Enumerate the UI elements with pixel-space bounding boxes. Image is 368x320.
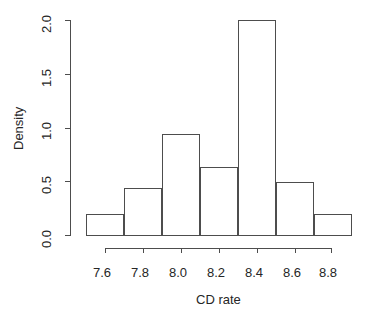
histogram-bar-0 — [86, 214, 124, 236]
histogram-bar-5 — [276, 182, 314, 236]
x-axis-tick-0 — [105, 248, 106, 253]
y-axis-tick-3 — [65, 74, 70, 75]
x-tick-label-1: 7.8 — [131, 266, 149, 279]
y-tick-label-0: 0.0 — [40, 230, 53, 248]
x-tick-label-5: 8.6 — [283, 266, 301, 279]
x-axis-title: CD rate — [196, 293, 241, 306]
x-axis-tick-4 — [257, 248, 258, 253]
x-axis-tick-1 — [143, 248, 144, 253]
x-tick-label-6: 8.8 — [319, 266, 337, 279]
histogram-bar-1 — [124, 188, 162, 236]
x-axis-tick-6 — [331, 248, 332, 253]
histogram-bar-2 — [162, 134, 200, 236]
x-axis-tick-3 — [219, 248, 220, 253]
y-tick-label-1: 0.5 — [40, 176, 53, 194]
histogram-bar-4 — [238, 20, 276, 236]
y-axis-title: Density — [12, 107, 25, 150]
histogram-bar-3 — [200, 167, 238, 236]
x-tick-label-2: 8.0 — [169, 266, 187, 279]
x-axis-tick-5 — [295, 248, 296, 253]
x-axis-tick-2 — [181, 248, 182, 253]
x-tick-label-3: 8.2 — [207, 266, 225, 279]
y-tick-label-3: 1.5 — [40, 69, 53, 87]
histogram-bar-6 — [314, 214, 352, 236]
histogram-plot: Density 0.0 0.5 1.0 1.5 2.0 7.6 7.8 8.0 … — [0, 0, 368, 320]
y-axis-tick-0 — [65, 235, 70, 236]
x-tick-label-0: 7.6 — [93, 266, 111, 279]
y-tick-label-4: 2.0 — [40, 15, 53, 33]
y-axis-tick-4 — [65, 20, 70, 21]
x-tick-label-4: 8.4 — [245, 266, 263, 279]
y-axis-line — [70, 20, 71, 236]
y-axis-tick-1 — [65, 181, 70, 182]
y-tick-label-2: 1.0 — [40, 122, 53, 140]
y-axis-tick-2 — [65, 128, 70, 129]
